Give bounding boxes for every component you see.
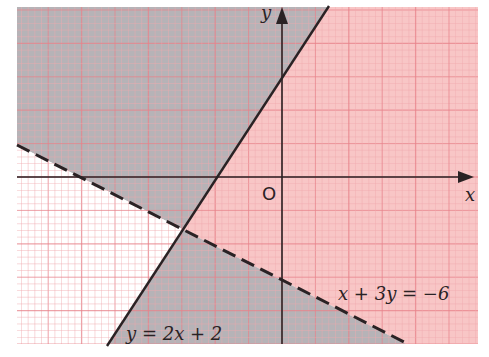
x-axis-label: x (465, 184, 475, 205)
origin-label: O (262, 183, 276, 204)
line1-label: y = 2x + 2 (125, 323, 222, 344)
y-axis-label: y (260, 2, 272, 23)
inequality-graph: y x O y = 2x + 2 x + 3y = −6 (0, 0, 489, 357)
line2-label: x + 3y = −6 (338, 283, 449, 304)
